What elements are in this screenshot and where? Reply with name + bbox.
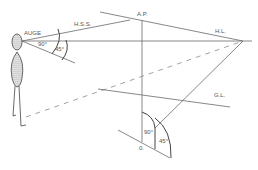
label-angle-45-top: 45°	[55, 46, 65, 52]
label-angle-45-bottom: 45°	[159, 138, 169, 144]
vanishing-diagonal-line	[155, 41, 243, 128]
label-angle-90-top: 90°	[38, 41, 48, 47]
figure-body	[11, 52, 23, 87]
label-ap: A.P.	[137, 11, 148, 17]
picture-plane-top-line	[100, 12, 243, 41]
label-angle-90-bottom: 90°	[144, 129, 154, 135]
label-hl: H.L.	[215, 28, 226, 34]
figure-head	[12, 34, 22, 50]
observer-figure	[11, 34, 26, 126]
label-origin: 0.	[139, 145, 144, 151]
label-auge: AUGE	[24, 30, 41, 36]
label-gl: G.L.	[214, 92, 226, 98]
figure-leg-left	[13, 86, 15, 116]
ground-line	[98, 89, 230, 107]
ground-sight-dashed-line	[26, 41, 243, 117]
perspective-diagram: AUGE H.S.S. A.P. H.L. G.L. 90° 45° 90° 4…	[0, 0, 258, 170]
label-hss: H.S.S.	[74, 21, 92, 27]
figure-leg-right	[19, 86, 21, 126]
figure-foot-right	[21, 125, 26, 126]
arc-90-bottom	[142, 112, 155, 128]
